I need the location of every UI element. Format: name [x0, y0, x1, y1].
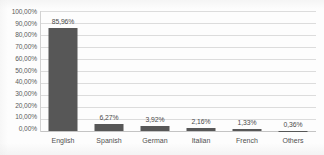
x-axis-label-others: Others	[270, 136, 316, 145]
bar-value-italian: 2,16%	[192, 118, 211, 126]
bar-others[interactable]	[279, 131, 308, 132]
bar-group-english: 85,96%	[40, 11, 86, 131]
y-axis-tick-80: 80,00%	[0, 31, 37, 38]
x-axis-label-german: German	[132, 136, 178, 145]
bar-group-others: 0,36%	[270, 11, 316, 131]
bar-group-french: 1,33%	[224, 11, 270, 131]
bar-group-spanish: 6,27%	[86, 11, 132, 131]
x-axis-label-french: French	[224, 136, 270, 145]
x-axis: English Spanish German Italian French Ot…	[40, 136, 316, 150]
bar-group-german: 3,92%	[132, 11, 178, 131]
bar-value-french: 1,33%	[238, 119, 257, 127]
bar-value-german: 3,92%	[146, 116, 165, 124]
y-axis-tick-90: 90,00%	[0, 20, 37, 27]
y-axis-tick-10: 10,00%	[0, 113, 37, 120]
bar-group-italian: 2,16%	[178, 11, 224, 131]
bar-spanish[interactable]	[95, 124, 124, 132]
y-axis-tick-50: 50,00%	[0, 67, 37, 74]
bar-value-english: 85,96%	[52, 18, 74, 26]
y-axis-tick-20: 20,00%	[0, 102, 37, 109]
x-axis-label-spanish: Spanish	[86, 136, 132, 145]
y-axis-tick-60: 60,00%	[0, 55, 37, 62]
bar-value-spanish: 6,27%	[100, 114, 119, 122]
y-axis-tick-100: 100,00%	[0, 8, 37, 15]
y-axis-tick-30: 30,00%	[0, 90, 37, 97]
bar-german[interactable]	[141, 126, 170, 131]
x-axis-label-english: English	[40, 136, 86, 145]
bar-chart: 100,00% 90,00% 80,00% 70,00% 60,00% 50,0…	[0, 0, 324, 155]
y-axis-line	[40, 11, 41, 132]
bar-english[interactable]	[49, 28, 78, 131]
clipped-chart-title	[128, 0, 198, 4]
bar-italian[interactable]	[187, 128, 216, 131]
y-axis: 100,00% 90,00% 80,00% 70,00% 60,00% 50,0…	[0, 11, 37, 132]
gridline-baseline	[40, 131, 316, 132]
y-axis-tick-40: 40,00%	[0, 78, 37, 85]
plot-area: 85,96% 6,27% 3,92% 2,16% 1,33% 0,36%	[40, 11, 316, 131]
x-axis-label-italian: Italian	[178, 136, 224, 145]
bar-french[interactable]	[233, 129, 262, 131]
y-axis-tick-70: 70,00%	[0, 43, 37, 50]
bar-value-others: 0,36%	[284, 121, 303, 129]
y-axis-tick-0: 0,00%	[0, 125, 37, 132]
